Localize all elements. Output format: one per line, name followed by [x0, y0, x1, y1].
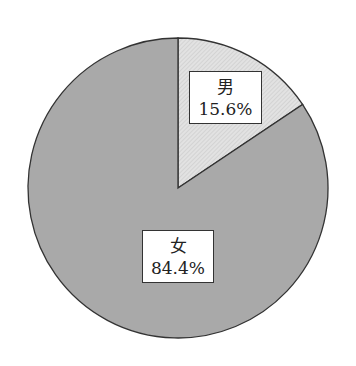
label-male-name: 男	[190, 76, 261, 98]
pie-slices	[28, 38, 328, 338]
label-male: 男 15.6%	[189, 71, 262, 124]
label-male-pct: 15.6%	[190, 98, 261, 120]
label-female-name: 女	[143, 235, 213, 257]
label-female: 女 84.4%	[142, 230, 214, 283]
pie-chart	[0, 0, 356, 366]
label-female-pct: 84.4%	[143, 257, 213, 279]
